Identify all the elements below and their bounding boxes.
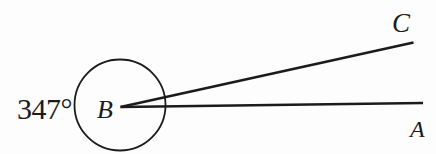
angle-diagram-svg: 347° B C A — [0, 0, 436, 154]
point-c-label: C — [392, 8, 411, 38]
vertex-b-label: B — [97, 95, 113, 124]
ray-bc — [121, 43, 414, 108]
point-a-label: A — [408, 116, 425, 142]
angle-measure-label: 347° — [17, 92, 72, 125]
reflex-angle-circle — [75, 60, 166, 151]
angle-diagram: 347° B C A — [0, 0, 436, 154]
